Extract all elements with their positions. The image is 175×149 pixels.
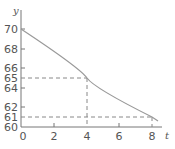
x-tick-label: 2	[51, 130, 58, 143]
y-tick-label: 60	[4, 121, 18, 134]
x-tick-labels: 0 2 4 6 8	[20, 130, 156, 143]
x-tick-label: 6	[116, 130, 123, 143]
x-tick-label: 8	[149, 130, 156, 143]
dashed-guides	[21, 78, 152, 127]
y-axis-label: y	[12, 5, 19, 16]
x-tick-label: 4	[84, 130, 91, 143]
line-chart: 70 68 66 65 64 62 61 60 0 2 4 6 8 y t	[0, 0, 175, 149]
y-tick-labels: 70 68 66 65 64 62 61 60	[4, 23, 18, 134]
x-axis-label: t	[165, 130, 170, 141]
y-tick-label: 70	[4, 23, 18, 36]
y-tick-label: 68	[4, 43, 18, 56]
y-tick-label: 64	[4, 82, 18, 95]
curve-line	[21, 29, 158, 121]
y-ticks	[21, 29, 25, 107]
x-tick-label: 0	[20, 130, 27, 143]
